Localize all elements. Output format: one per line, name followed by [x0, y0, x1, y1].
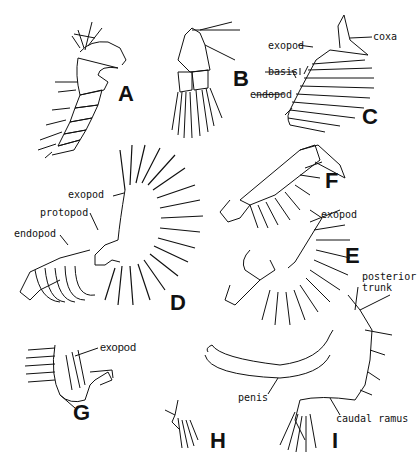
label-g-exopod: exopod	[100, 342, 136, 352]
label-c-endopod: endopod	[250, 90, 292, 100]
appendage-illustrations	[0, 0, 420, 465]
label-leader-d-endopod	[60, 235, 68, 245]
appendage-d-drawing	[20, 145, 203, 305]
label-i-caudal-ramus: caudal ramus	[336, 414, 408, 424]
label-leader-ef-exopod-e	[288, 218, 322, 268]
panel-letter-c: C	[362, 106, 378, 128]
label-leader-c-coxa	[350, 37, 372, 38]
panel-letter-a: A	[118, 83, 134, 105]
label-d-endopod: endopod	[14, 229, 56, 239]
label-c-coxa: coxa	[373, 32, 397, 42]
label-leader-penis	[268, 378, 278, 394]
label-penis: penis	[238, 393, 268, 403]
panel-letter-f: F	[325, 170, 338, 192]
appendage-a-drawing	[38, 22, 126, 158]
label-ef-exopod: exopod	[321, 210, 357, 220]
appendage-h-drawing	[165, 400, 198, 448]
label-i-posterior: posterior	[362, 272, 416, 282]
label-c-basis: basis	[268, 67, 298, 77]
penis-drawing	[205, 330, 333, 378]
label-leader-d-exopod	[113, 193, 124, 196]
panel-letter-i: I	[332, 430, 338, 452]
appendage-b-drawing	[172, 22, 240, 138]
panel-letter-d: D	[170, 292, 186, 314]
panel-letter-g: G	[73, 402, 90, 424]
panel-letter-e: E	[345, 245, 360, 267]
panel-letter-b: B	[233, 68, 249, 90]
label-i-trunk: trunk	[362, 283, 392, 293]
appendage-g-drawing	[25, 345, 113, 408]
label-c-exopod: exopod	[268, 41, 304, 51]
label-d-exopod: exopod	[68, 190, 104, 200]
panel-letter-h: H	[210, 430, 226, 452]
label-leader-d-protopod	[90, 213, 98, 230]
appendage-c-drawing	[285, 15, 374, 132]
appendage-e-drawing	[225, 210, 350, 325]
label-d-protopod: protopod	[40, 208, 88, 218]
